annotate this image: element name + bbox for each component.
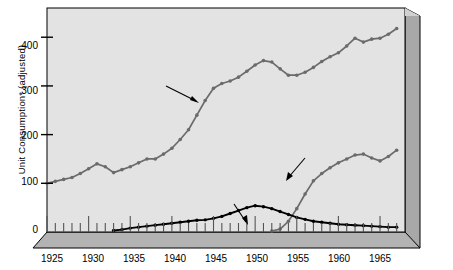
series-point [295, 73, 299, 77]
series-point [303, 192, 307, 196]
series-point [103, 165, 107, 169]
series-point [278, 67, 282, 71]
series-point [387, 33, 391, 37]
series-point [79, 172, 83, 176]
series-point [312, 220, 315, 223]
panel-floor-3d [33, 232, 420, 248]
series-point [270, 207, 273, 210]
series-point [320, 172, 324, 176]
series-point [287, 213, 290, 216]
series-point [253, 204, 256, 207]
series-point [70, 176, 74, 180]
series-point [54, 180, 58, 184]
series-point [170, 146, 174, 150]
series-point [328, 55, 332, 59]
series-point [370, 37, 374, 41]
series-point [395, 27, 399, 31]
series-point [353, 36, 357, 40]
panel-side-3d [405, 8, 420, 248]
series-point [162, 152, 166, 156]
series-point [87, 167, 91, 171]
series-point [212, 87, 216, 91]
series-point [145, 157, 149, 161]
series-point [312, 66, 316, 70]
series-point [295, 207, 299, 211]
series-point [203, 218, 206, 221]
series-point [153, 157, 157, 161]
series-point [245, 70, 249, 74]
series-point [270, 60, 274, 64]
series-point [287, 219, 291, 223]
series-point [137, 161, 141, 165]
series-point [337, 51, 341, 55]
series-point [228, 79, 232, 83]
series-point [395, 148, 399, 152]
series-point [187, 128, 191, 132]
series-point [253, 63, 257, 67]
series-point [303, 70, 307, 74]
series-point [120, 168, 124, 172]
series-point [220, 82, 224, 86]
series-point [378, 36, 382, 40]
series-point [312, 179, 316, 183]
chart-plot-area [0, 0, 453, 270]
series-point [328, 166, 332, 170]
series-point [320, 60, 324, 64]
series-point [178, 138, 182, 142]
series-point [287, 73, 291, 77]
series-point [220, 215, 223, 218]
series-point [378, 159, 382, 163]
series-point [278, 210, 281, 213]
series-point [228, 212, 231, 215]
series-point [370, 156, 374, 160]
series-point [195, 113, 199, 117]
series-point [337, 161, 341, 165]
series-point [262, 205, 265, 208]
series-point [345, 157, 349, 161]
chart-figure: Unit Consumption* (adjusted) 400 300 200… [0, 0, 453, 270]
series-point [303, 218, 306, 221]
series-point [353, 153, 357, 157]
series-point [237, 75, 241, 79]
series-point [62, 178, 66, 182]
series-point [245, 206, 248, 209]
series-point [128, 165, 132, 169]
series-point [362, 152, 366, 156]
series-point [387, 155, 391, 159]
series-point [362, 40, 366, 44]
series-point [262, 59, 266, 63]
series-point [203, 99, 207, 103]
series-point [187, 220, 190, 223]
series-point [95, 162, 99, 166]
series-point [195, 219, 198, 222]
series-point [112, 171, 116, 175]
series-point [345, 44, 349, 48]
